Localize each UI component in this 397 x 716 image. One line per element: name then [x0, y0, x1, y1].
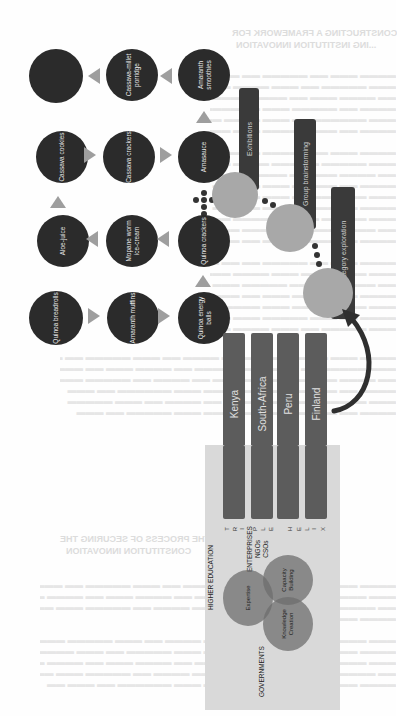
connector-dot — [201, 197, 207, 203]
product-circle-amaranth-smoothies: Amaranth smoothies — [178, 49, 230, 101]
arrow-right-icon — [88, 308, 100, 324]
connector-dot — [201, 204, 207, 210]
venn-circle-knowledge-creation: KnowledgeCreation — [263, 597, 313, 651]
product-circle-empty — [29, 49, 83, 103]
product-circle-aloe-juice: Aloe-juice — [37, 215, 89, 267]
product-circle-cassava-crackers: Cassava crackers — [103, 131, 155, 183]
sector-label-governments: GOVERNMENTS — [258, 646, 266, 697]
curved-arrow-icon — [330, 305, 390, 420]
country-bar-kenya-overlap — [223, 445, 245, 519]
letter-l2: L — [305, 526, 308, 532]
letter-i: I — [241, 526, 243, 532]
letter-h: H — [288, 526, 292, 532]
arrow-up-icon — [50, 196, 66, 208]
sector-label-higher-education: HIGHER EDUCATION — [207, 545, 215, 610]
arrow-right-icon — [84, 147, 96, 163]
letter-x: X — [321, 526, 325, 532]
product-circle-quinoa-crackers: Quinoa crackers — [178, 215, 230, 267]
letter-i2: I — [313, 526, 315, 532]
product-circle-amaranth-muffins: Amaranth muffins — [107, 292, 159, 344]
product-circle-cassava-millet-porridge: Cassava-millet porridge — [106, 49, 158, 101]
letter-t: T — [225, 526, 229, 532]
arrow-up-icon — [196, 111, 212, 123]
connector-dot — [314, 252, 320, 258]
connector-dot — [193, 197, 199, 203]
product-circle-mopane-worm-ice-cream: Mopane worm ice-cream — [106, 215, 158, 267]
stage-circle-group-brainstorming — [266, 204, 314, 252]
letter-e2: E — [297, 526, 301, 532]
arrow-right-icon — [158, 308, 170, 324]
country-bar-finland-overlap — [305, 445, 327, 519]
arrow-left-icon — [160, 68, 172, 84]
arrow-left-icon — [157, 231, 169, 247]
country-bar-south-africa-overlap — [251, 445, 273, 519]
connector-dot — [270, 202, 276, 208]
product-circle-quinoa-breadrolls: Quinoa breadrolls — [29, 291, 83, 345]
stage-circle-exhibitions — [212, 172, 258, 218]
arrow-right-icon — [160, 147, 172, 163]
letter-r: R — [233, 526, 237, 532]
bleed-heading-4: CONSTITUTION INNOVATION — [66, 546, 191, 556]
connector-dot — [262, 198, 268, 204]
arrow-left-icon — [86, 231, 98, 247]
connector-dot — [316, 261, 322, 267]
connector-dot — [312, 243, 318, 249]
country-bar-peru-overlap — [277, 445, 299, 519]
connector-dot — [201, 190, 207, 196]
bleed-heading-2: ...ING INSTITUTION INNOVATION — [236, 40, 376, 50]
arrow-up-icon — [195, 275, 211, 287]
arrow-left-icon — [88, 68, 100, 84]
bleed-heading-1: CONSTRUCTING A FRAMEWORK FOR — [232, 28, 397, 38]
product-circle-cassava-cookies: Cassava cookies — [36, 131, 88, 183]
